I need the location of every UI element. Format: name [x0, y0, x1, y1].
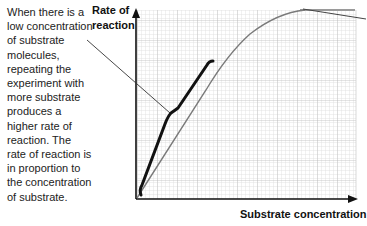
grid	[137, 10, 356, 199]
